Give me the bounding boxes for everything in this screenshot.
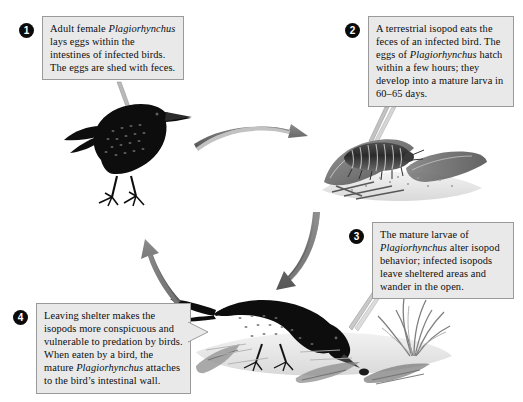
step-1-callout: Adult female Plagiorhynchus lays eggs wi… [42,16,184,80]
step-4-callout-tail [188,322,212,348]
life-cycle-diagram: 1 Adult female Plagiorhynchus lays eggs … [0,0,523,402]
step-4-callout: Leaving shelter makes the isopods more c… [36,303,191,394]
step-1-badge: 1 [19,23,34,38]
illustration-starling-feeding-on-ground [170,298,452,384]
leader-line-step1 [117,82,141,139]
step-2-callout: A terrestrial isopod eats the feces of a… [368,16,514,107]
step-3-text-a: The mature larvae of [380,229,469,240]
arrow-step4-to-step1 [141,239,181,305]
step-2-badge: 2 [345,23,360,38]
step-4-species: Plagiorhynchus [76,362,143,373]
arrow-step1-to-step2 [194,124,308,151]
step-2-species: Plagiorhynchus [410,49,477,60]
step-1-text-a: Adult female [50,23,108,34]
step-3-species: Plagiorhynchus [380,242,447,253]
step-4-badge: 4 [13,310,28,325]
arrow-step2-to-step3 [276,212,320,290]
step-3-callout: The mature larvae of Plagiorhynchus alte… [372,222,514,299]
illustration-isopod-on-leaf-litter [322,139,487,201]
leader-line-step2 [369,107,396,144]
illustration-adult-starling-standing [64,104,192,206]
step-1-species: Plagiorhynchus [108,23,175,34]
step-1-text-b: lays eggs within the intestines of infec… [50,36,175,73]
step-3-badge: 3 [349,229,364,244]
